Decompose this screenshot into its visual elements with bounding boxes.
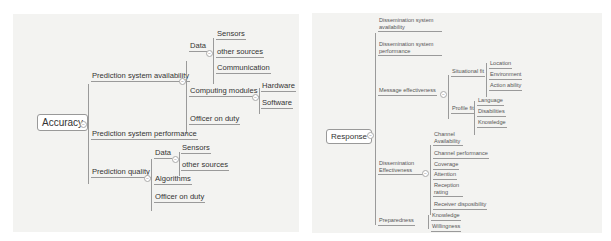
node-knowledge[interactable]: Knowledge [431, 212, 461, 221]
node-situational-fit[interactable]: Situational fit [451, 68, 485, 77]
connector-line [428, 215, 429, 229]
collapse-toggle-icon[interactable]: − [206, 50, 213, 57]
node-language[interactable]: Language [477, 97, 504, 106]
branch-dissemination-system-performance[interactable]: Dissemination system performance [378, 41, 442, 56]
connector-line [259, 88, 260, 114]
connector-line [186, 61, 187, 134]
branch-prediction-system-performance[interactable]: Prediction system performance [91, 130, 198, 140]
connector-line [151, 159, 152, 211]
node-communication[interactable]: Communication [216, 64, 271, 74]
node-other-sources[interactable]: other sources [181, 161, 229, 171]
node-profile-fit[interactable]: Profile fit [451, 105, 475, 114]
branch-message-effectiveness[interactable]: Message effectiveness [378, 87, 437, 96]
node-computing-modules[interactable]: Computing modules [189, 87, 259, 97]
collapse-toggle-icon[interactable]: − [367, 132, 374, 139]
branch-dissemination-effectiveness[interactable]: Dissemination Effectiveness [378, 160, 424, 175]
collapse-toggle-icon[interactable]: − [80, 121, 87, 128]
branch-dissemination-system-availability[interactable]: Dissemination system availability [378, 17, 442, 32]
node-receiver-disposibility[interactable]: Receiver disposibility [433, 201, 487, 210]
node-software[interactable]: Software [261, 99, 293, 109]
connector-line [375, 33, 376, 225]
collapse-toggle-icon[interactable]: − [440, 91, 447, 98]
node-channel-availability[interactable]: Channel Availability [433, 131, 463, 146]
node-knowledge[interactable]: Knowledge [477, 119, 507, 128]
collapse-toggle-icon[interactable]: − [252, 94, 259, 101]
node-sensors[interactable]: Sensors [216, 30, 246, 40]
collapse-toggle-icon[interactable]: − [422, 170, 429, 177]
connector-line [213, 38, 214, 84]
node-officer-on-duty[interactable]: Officer on duty [154, 193, 205, 203]
node-data[interactable]: Data [189, 42, 207, 52]
accuracy-mindmap-panel: Accuracy − Prediction system availabilit… [13, 14, 299, 232]
connector-line [430, 145, 431, 215]
response-mindmap-panel: Response − Dissemination system availabi… [312, 13, 602, 233]
node-channel-performance[interactable]: Channel performance [433, 150, 489, 159]
node-algorithms[interactable]: Algorithms [154, 175, 192, 185]
connector-line [179, 152, 180, 176]
root-node-response[interactable]: Response [326, 129, 372, 144]
branch-prediction-system-availability[interactable]: Prediction system availability [91, 72, 190, 82]
node-hardware[interactable]: Hardware [261, 82, 296, 92]
node-environment[interactable]: Environment [489, 71, 522, 80]
branch-preparedness[interactable]: Preparedness [378, 217, 415, 226]
branch-prediction-quality[interactable]: Prediction quality [91, 168, 151, 178]
node-data[interactable]: Data [154, 149, 172, 159]
connector-line [88, 84, 89, 184]
collapse-toggle-icon[interactable]: − [179, 78, 186, 85]
node-attention[interactable]: Attention [433, 171, 457, 180]
node-location[interactable]: Location [489, 60, 512, 69]
node-coverage[interactable]: Coverage [433, 161, 459, 170]
node-action-ability[interactable]: Action ability [489, 82, 522, 91]
node-officer-on-duty[interactable]: Officer on duty [189, 115, 240, 125]
node-disabilities[interactable]: Disabilities [477, 108, 506, 117]
node-willingness[interactable]: Willingness [431, 223, 461, 232]
connector-line [474, 101, 475, 135]
connector-line [486, 63, 487, 97]
collapse-toggle-icon[interactable]: − [172, 156, 179, 163]
node-other-sources[interactable]: other sources [216, 48, 264, 58]
collapse-toggle-icon[interactable]: − [144, 175, 151, 182]
node-reception-rating[interactable]: Reception rating [433, 182, 463, 197]
connector-line [448, 75, 449, 119]
node-sensors[interactable]: Sensors [181, 144, 211, 154]
